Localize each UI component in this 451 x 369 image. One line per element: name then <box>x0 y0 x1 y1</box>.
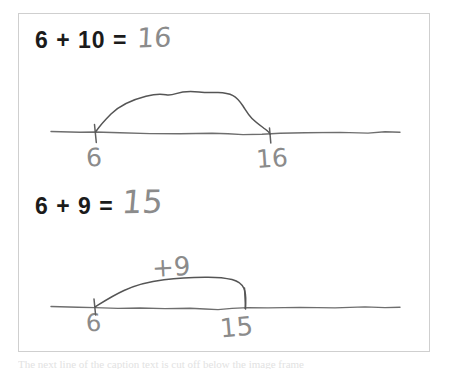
numberline-2-jump-label: +9 <box>151 253 191 281</box>
handwritten-answer-1: 16 <box>136 23 172 51</box>
numberline-2-end-label: 15 <box>219 313 254 342</box>
worksheet-scan: 6 + 10 = 16 6 16 6 + 9 = 15 +9 6 15 The … <box>0 0 451 369</box>
printed-equation-2: 6 + 9 = <box>35 195 114 218</box>
worksheet-frame <box>18 13 430 352</box>
handwritten-answer-2: 15 <box>121 186 165 219</box>
numberline-2-start-label: 6 <box>85 310 102 335</box>
numberline-1-start-label: 6 <box>85 145 102 171</box>
printed-equation-1: 6 + 10 = <box>35 29 127 52</box>
clipped-caption-sliver: The next line of the caption text is cut… <box>18 358 430 369</box>
numberline-1-end-label: 16 <box>255 145 288 172</box>
